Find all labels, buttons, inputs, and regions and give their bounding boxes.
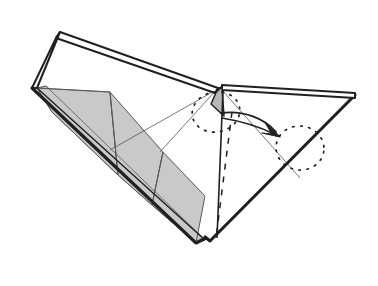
origami-figure-root (0, 0, 378, 286)
origami-diagram (0, 0, 378, 286)
